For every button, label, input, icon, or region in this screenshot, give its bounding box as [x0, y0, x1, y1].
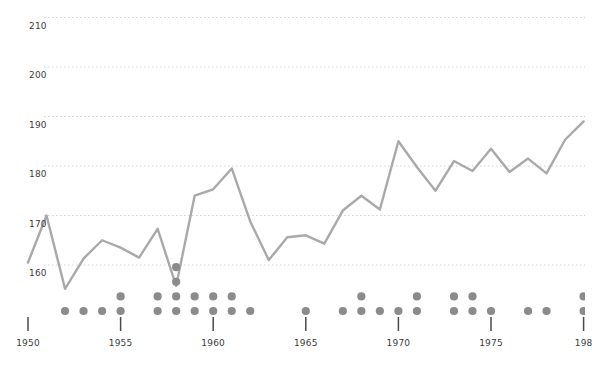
x-axis-tick-label: 1960	[201, 338, 225, 348]
gridlines	[44, 18, 585, 266]
dot-plot-point	[413, 307, 421, 315]
y-axis-tick-label: 180	[29, 169, 47, 179]
x-axis-tick-label: 198	[575, 338, 592, 348]
dot-plot-point	[357, 292, 365, 300]
dot-plot-point	[172, 307, 180, 315]
dot-plot-point	[246, 307, 254, 315]
dot-plot-point	[172, 278, 180, 286]
y-axis-tick-label: 170	[29, 219, 47, 229]
x-axis-tick-label: 1970	[387, 338, 411, 348]
y-axis-tick-label: 190	[29, 120, 47, 130]
dot-plot-point	[117, 307, 125, 315]
dot-plot-point	[79, 307, 87, 315]
dot-plot-point	[468, 307, 476, 315]
dot-plot-point	[376, 307, 384, 315]
dot-plot-point	[450, 307, 458, 315]
dot-plot-point	[524, 307, 532, 315]
dot-plot-point	[172, 292, 180, 300]
dot-plot-point	[191, 307, 199, 315]
dot-plot-point	[450, 292, 458, 300]
dot-plot-point	[228, 292, 236, 300]
dot-plot-point	[487, 307, 495, 315]
x-axis-tick-label: 1975	[479, 338, 503, 348]
x-axis-tick-label: 1965	[294, 338, 318, 348]
dot-plot-points	[61, 263, 585, 315]
dot-plot-point	[209, 292, 217, 300]
y-axis-tick-label: 160	[29, 268, 47, 278]
line-series-path	[28, 121, 584, 288]
dot-plot-point	[357, 307, 365, 315]
dot-plot-point	[209, 307, 217, 315]
dot-plot-point	[172, 263, 180, 271]
x-axis-tick-label: 1955	[109, 338, 133, 348]
dot-plot-point	[468, 292, 476, 300]
dot-plot-point	[154, 307, 162, 315]
y-axis-tick-label: 210	[29, 21, 47, 31]
dot-plot-point	[339, 307, 347, 315]
dot-plot-point	[61, 307, 69, 315]
x-axis-tick-label: 1950	[16, 338, 40, 348]
dot-plot-point	[228, 307, 236, 315]
dot-plot-point	[191, 292, 199, 300]
y-axis-tick-label: 200	[29, 70, 47, 80]
dot-plot-point	[302, 307, 310, 315]
line-path	[28, 121, 584, 288]
dot-plot-point	[98, 307, 106, 315]
dot-plot-point	[542, 307, 550, 315]
x-axis-ticks	[28, 317, 584, 331]
dot-plot-point	[394, 307, 402, 315]
dot-plot-point	[580, 307, 586, 315]
dot-plot-point	[117, 292, 125, 300]
dot-plot-point	[580, 292, 586, 300]
dot-plot-point	[154, 292, 162, 300]
dot-plot-point	[413, 292, 421, 300]
